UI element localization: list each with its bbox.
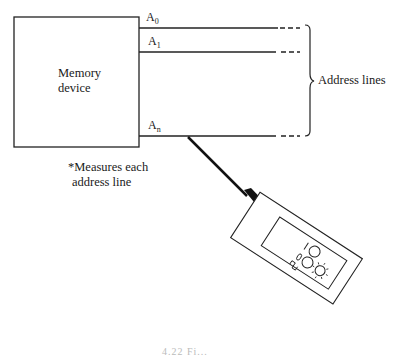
label-a1: A1: [148, 34, 161, 53]
probe-tip: [188, 137, 247, 196]
memory-device-label: Memory device: [58, 66, 101, 96]
address-lines: [139, 28, 300, 136]
note-line2: address line: [68, 175, 148, 190]
label-a0: A0: [146, 10, 159, 29]
note-line1: *Measures each: [68, 160, 148, 175]
label-an: An: [148, 118, 161, 137]
memory-label-line2: device: [58, 81, 101, 96]
diagram-canvas: [0, 0, 407, 355]
logic-probe: [188, 137, 362, 304]
probe-body: [231, 192, 363, 304]
memory-label-line1: Memory: [58, 66, 101, 81]
measurement-note: *Measures each address line: [68, 160, 148, 190]
figure-caption: 4.22 Fi...: [162, 346, 208, 355]
address-lines-label: Address lines: [318, 73, 386, 87]
brace-icon: [305, 25, 314, 136]
